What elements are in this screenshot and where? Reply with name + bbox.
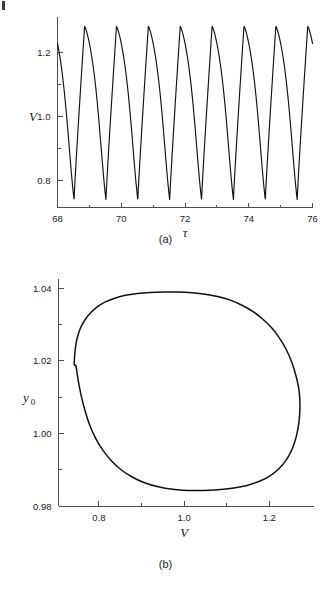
x-tick-label: 72: [180, 213, 191, 224]
x-axis-title: V: [180, 525, 190, 540]
panel-caption-a: (a): [159, 233, 172, 245]
y-tick-label: 1.0: [37, 111, 50, 122]
figure-root: 68707274760.81.01.2Vτ(a) 0.81.01.20.981.…: [0, 0, 331, 590]
limit-cycle-curve: [74, 292, 300, 491]
y-axis-title-subscript: 0: [31, 397, 36, 407]
y-axis-title-base: y: [21, 390, 29, 405]
x-tick-label: 0.8: [92, 512, 105, 523]
x-tick-label: 1.0: [178, 512, 191, 523]
y-tick-label: 1.02: [33, 355, 52, 366]
phase-portrait-plot: 0.81.01.20.981.001.021.04y0V(b): [0, 250, 331, 590]
y-tick-label: 1.00: [33, 428, 52, 439]
x-tick-label: 1.2: [263, 512, 276, 523]
y-tick-label: 1.04: [33, 283, 52, 294]
y-axis-title: y0: [21, 390, 36, 408]
time-series-panel: 68707274760.81.01.2Vτ(a): [0, 0, 331, 250]
panel-caption-b: (b): [159, 558, 172, 570]
x-tick-label: 68: [52, 213, 63, 224]
x-axis-title: τ: [183, 225, 189, 240]
y-tick-label: 0.8: [37, 175, 50, 186]
phase-portrait-panel: 0.81.01.20.981.001.021.04y0V(b): [0, 250, 331, 590]
time-series-plot: 68707274760.81.01.2Vτ(a): [0, 0, 331, 250]
time-series-curve: [58, 26, 313, 199]
x-tick-label: 70: [116, 213, 127, 224]
x-tick-label: 74: [243, 213, 254, 224]
y-tick-label: 1.2: [37, 47, 50, 58]
y-tick-label: 0.98: [33, 501, 52, 512]
x-tick-label: 76: [307, 213, 318, 224]
